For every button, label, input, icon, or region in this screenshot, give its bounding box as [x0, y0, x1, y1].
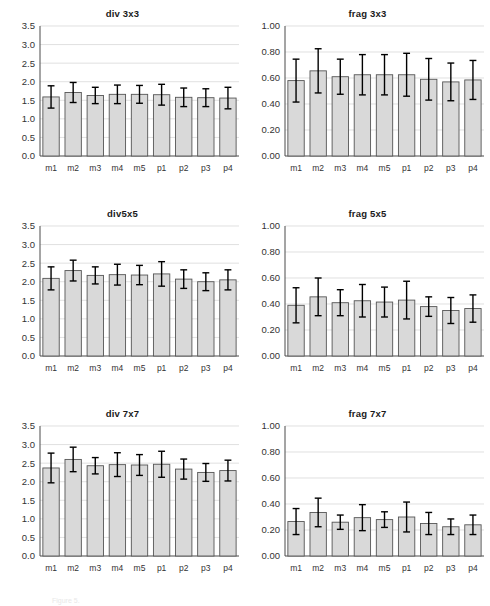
bar-group	[376, 512, 392, 556]
y-axis-tick-label: 0.20	[262, 324, 281, 335]
x-axis-tick-label: m1	[290, 363, 302, 373]
y-axis-tick-label: 0.40	[262, 498, 281, 509]
y-axis-tick-label: 3.0	[22, 439, 35, 450]
y-axis-tick-label: 2.0	[22, 76, 35, 87]
bar-group	[109, 453, 125, 556]
x-axis-tick-label: m4	[356, 163, 368, 173]
y-axis-tick-label: 0.5	[22, 332, 35, 343]
plot-area: 0.00.51.01.52.02.53.03.5m1m2m3m4m5p1p2p3…	[0, 422, 245, 597]
y-axis-tick-label: 1.5	[22, 295, 35, 306]
bar-group	[109, 85, 125, 156]
bar-group	[220, 270, 236, 356]
x-axis-tick-label: m4	[111, 363, 123, 373]
x-axis-tick-label: p3	[201, 363, 211, 373]
x-axis-tick-label: p3	[201, 163, 211, 173]
bar-group	[153, 451, 169, 556]
bar-group	[310, 49, 326, 156]
y-axis-tick-label: 3.5	[22, 420, 35, 431]
y-axis-tick-label: 2.5	[22, 58, 35, 69]
chart-panel-frag-7x7: frag 7x7 0.000.200.400.600.801.00m1m2m3m…	[245, 400, 490, 600]
bar-group	[65, 447, 81, 556]
bar-group	[176, 459, 192, 556]
x-axis-tick-label: m4	[111, 563, 123, 573]
x-axis-tick-label: m4	[356, 363, 368, 373]
y-axis-tick-label: 0.40	[262, 98, 281, 109]
y-axis-tick-label: 0.40	[262, 298, 281, 309]
bar	[65, 271, 81, 356]
x-axis-tick-label: p3	[446, 363, 456, 373]
y-axis-tick-label: 2.0	[22, 476, 35, 487]
bar-group	[87, 87, 103, 156]
bar-group	[153, 262, 169, 356]
bar-group	[65, 82, 81, 156]
x-axis-tick-label: m2	[67, 163, 79, 173]
bar-group	[443, 298, 459, 357]
figure-panel-grid: div 3x3 0.00.51.01.52.02.53.03.5m1m2m3m4…	[0, 0, 490, 606]
bar-group	[43, 86, 59, 156]
bar-group	[131, 85, 147, 156]
chart-panel-frag-5x5: frag 5x5 0.000.200.400.600.801.00m1m2m3m…	[245, 200, 490, 400]
bar-group	[398, 53, 414, 156]
bar	[220, 280, 236, 356]
x-axis-tick-label: p1	[157, 163, 167, 173]
bar-group	[398, 502, 414, 556]
y-axis-tick-label: 1.0	[22, 513, 35, 524]
x-axis-tick-label: m4	[356, 563, 368, 573]
bar	[153, 464, 169, 556]
bar-group	[288, 509, 304, 556]
y-axis-tick-label: 0.0	[22, 550, 35, 561]
x-axis-tick-label: m5	[379, 363, 391, 373]
y-axis-tick-label: 1.5	[22, 495, 35, 506]
y-axis-tick-label: 1.5	[22, 95, 35, 106]
chart-title: frag 3x3	[245, 8, 490, 19]
chart-title: frag 7x7	[245, 408, 490, 419]
y-axis-tick-label: 0.80	[262, 46, 281, 57]
bar-group	[153, 84, 169, 156]
y-axis-tick-label: 2.0	[22, 276, 35, 287]
bar-group	[421, 59, 437, 157]
bar-group	[465, 60, 481, 156]
x-axis-tick-label: m3	[334, 563, 346, 573]
bar-group	[376, 55, 392, 156]
y-axis-tick-label: 0.5	[22, 532, 35, 543]
y-axis-tick-label: 0.60	[262, 272, 281, 283]
x-axis-tick-label: m1	[290, 163, 302, 173]
plot-area: 0.000.200.400.600.801.00m1m2m3m4m5p1p2p3…	[245, 222, 490, 397]
x-axis-tick-label: m5	[379, 163, 391, 173]
bar	[109, 465, 125, 556]
bar	[87, 275, 103, 356]
bar-group	[354, 505, 370, 556]
y-axis-tick-label: 0.00	[262, 350, 281, 361]
x-axis-tick-label: p2	[179, 163, 189, 173]
bar-group	[87, 458, 103, 556]
chart-panel-frag-3x3: frag 3x3 0.000.200.400.600.801.00m1m2m3m…	[245, 0, 490, 200]
y-axis-tick-label: 0.80	[262, 246, 281, 257]
y-axis-tick-label: 2.5	[22, 458, 35, 469]
bar	[131, 465, 147, 556]
chart-panel-div-7x7: div 7x7 0.00.51.01.52.02.53.03.5m1m2m3m4…	[0, 400, 245, 600]
x-axis-tick-label: p2	[179, 363, 189, 373]
bar-group	[443, 519, 459, 556]
x-axis-tick-label: p1	[157, 363, 167, 373]
x-axis-tick-label: p1	[402, 563, 412, 573]
bar	[198, 472, 214, 556]
plot-area: 0.000.200.400.600.801.00m1m2m3m4m5p1p2p3…	[245, 422, 490, 597]
x-axis-tick-label: m2	[67, 363, 79, 373]
bar-group	[198, 464, 214, 556]
bar-group	[332, 59, 348, 156]
bar-group	[421, 297, 437, 356]
y-axis-tick-label: 1.0	[22, 113, 35, 124]
plot-area: 0.00.51.01.52.02.53.03.5m1m2m3m4m5p1p2p3…	[0, 222, 245, 397]
figure-caption-fragment: Figure 5.	[52, 597, 80, 604]
plot-area: 0.000.200.400.600.801.00m1m2m3m4m5p1p2p3…	[245, 22, 490, 197]
y-axis-tick-label: 0.20	[262, 124, 281, 135]
bar-group	[65, 260, 81, 356]
x-axis-tick-label: m4	[111, 163, 123, 173]
y-axis-tick-label: 1.0	[22, 313, 35, 324]
bar	[87, 466, 103, 556]
x-axis-tick-label: p2	[179, 563, 189, 573]
bar-group	[310, 498, 326, 556]
bar-group	[354, 285, 370, 357]
chart-panel-div-5x5: div5x5 0.00.51.01.52.02.53.03.5m1m2m3m4m…	[0, 200, 245, 400]
x-axis-tick-label: p2	[424, 363, 434, 373]
